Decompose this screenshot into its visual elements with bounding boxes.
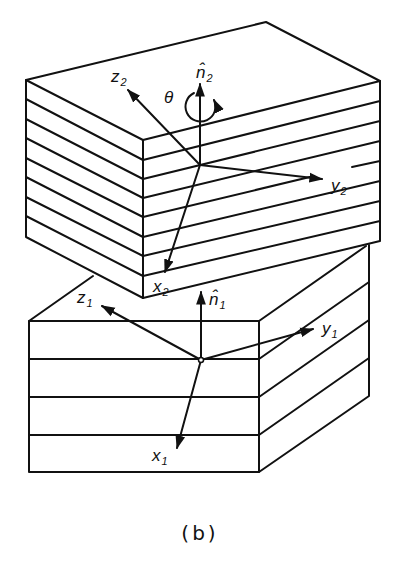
z1-label: z1 — [76, 288, 93, 309]
theta-label: θ — [164, 88, 174, 107]
figure-caption: (b) — [181, 521, 218, 545]
laminate-rotation-diagram: z2 n̂2 θ y2 x2 z1 n̂1 y1 x1 (b) — [0, 0, 402, 573]
n1-label: n̂1 — [209, 289, 226, 311]
